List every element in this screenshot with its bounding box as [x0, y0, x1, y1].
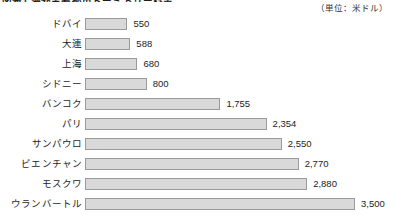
unit-annotation: （単位：米ドル）	[316, 1, 388, 13]
bar-value-label: 1,755	[226, 94, 250, 114]
bar	[85, 198, 355, 210]
bar-track: 2,354	[85, 114, 394, 134]
bar-value-label: 680	[143, 54, 159, 74]
bar-row: 上海680	[0, 54, 394, 74]
bar-row: サンパウロ2,550	[0, 134, 394, 154]
bar-category-label: サンパウロ	[0, 134, 82, 154]
bar-row: ウランバートル3,500	[0, 194, 394, 214]
bar-track: 588	[85, 34, 394, 54]
bar-track: 2,880	[85, 174, 394, 194]
bar-track: 550	[85, 14, 394, 34]
bar-row: パリ2,354	[0, 114, 394, 134]
bar-track: 2,550	[85, 134, 394, 154]
bar-category-label: バンコク	[0, 94, 82, 114]
bar-row: バンコク1,755	[0, 94, 394, 114]
bar	[85, 78, 147, 90]
bar-chart-figure: 図表1 海外主要都市ドーミトリー料金 （単位：米ドル） ドバイ550大連588上…	[0, 0, 394, 220]
bar-row: シドニー800	[0, 74, 394, 94]
bar-value-label: 588	[136, 34, 152, 54]
bar-category-label: シドニー	[0, 74, 82, 94]
bar	[85, 18, 127, 30]
bar	[85, 138, 282, 150]
bar-category-label: パリ	[0, 114, 82, 134]
bar-rows: ドバイ550大連588上海680シドニー800バンコク1,755パリ2,354サ…	[0, 14, 394, 214]
bar-category-label: ドバイ	[0, 14, 82, 34]
bar-value-label: 2,550	[288, 134, 312, 154]
bar	[85, 38, 130, 50]
bar-category-label: 上海	[0, 54, 82, 74]
bar-track: 680	[85, 54, 394, 74]
bar-value-label: 2,770	[305, 154, 329, 174]
bar-row: 大連588	[0, 34, 394, 54]
page-title: 図表1 海外主要都市ドーミトリー料金	[2, 0, 174, 2]
bar-value-label: 3,500	[361, 194, 385, 214]
bar-row: ビエンチャン2,770	[0, 154, 394, 174]
bar-value-label: 550	[133, 14, 149, 34]
bar-row: ドバイ550	[0, 14, 394, 34]
bar-track: 800	[85, 74, 394, 94]
bar-track: 1,755	[85, 94, 394, 114]
bar	[85, 118, 267, 130]
bar	[85, 98, 220, 110]
bar-category-label: モスクワ	[0, 174, 82, 194]
bar-value-label: 800	[153, 74, 169, 94]
bar-category-label: ビエンチャン	[0, 154, 82, 174]
bar	[85, 58, 137, 70]
bar-value-label: 2,354	[273, 114, 297, 134]
bar-value-label: 2,880	[313, 174, 337, 194]
baseline-rule	[0, 219, 394, 220]
bar	[85, 178, 307, 190]
bar	[85, 158, 299, 170]
bar-category-label: 大連	[0, 34, 82, 54]
bar-track: 2,770	[85, 154, 394, 174]
bar-track: 3,500	[85, 194, 394, 214]
bar-row: モスクワ2,880	[0, 174, 394, 194]
bar-category-label: ウランバートル	[0, 194, 82, 214]
